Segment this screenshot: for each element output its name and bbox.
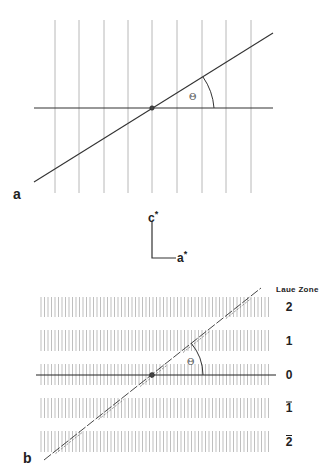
laue-zone-label: 1 <box>286 334 293 348</box>
panel-a-theta-label: Θ <box>189 92 196 102</box>
panel-b-theta-label: Θ <box>187 357 194 367</box>
panel-b-origin-point <box>150 373 155 378</box>
laue-zone-legend-title: Laue Zone <box>276 285 319 294</box>
laue-zone-labels: 21012 <box>286 300 293 449</box>
panel-b-label: b <box>23 450 32 466</box>
laue-zone-label: 2 <box>286 300 293 314</box>
panel-a-angle-arc <box>203 77 214 108</box>
panel-a: Θ a <box>13 20 273 202</box>
laue-zone-label: 2 <box>286 435 293 449</box>
laue-zone-label: 1 <box>286 401 293 415</box>
axis-a-star-label: a* <box>177 249 188 265</box>
laue-zone-label: 0 <box>286 368 293 382</box>
axes-key: c* a* <box>148 209 188 265</box>
axes-key-lines <box>152 222 176 258</box>
panel-b: Θ b Laue Zone 21012 <box>23 285 319 466</box>
laue-zone-diagram: Θ a c* a* Θ b Laue Zone 21012 <box>0 0 330 467</box>
panel-a-label: a <box>13 186 21 202</box>
axis-c-star-label: c* <box>148 209 159 225</box>
panel-a-origin-point <box>150 106 154 110</box>
